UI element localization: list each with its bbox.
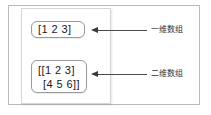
one-dimensional-array-value: [1 2 3] — [38, 23, 84, 36]
diagram-canvas: [1 2 3] [[1 2 3] [4 5 6]] 一维数组 二维数组 — [0, 0, 211, 115]
two-dimensional-array-box: [[1 2 3] [4 5 6]] — [31, 60, 87, 93]
two-dimensional-array-row-2: [4 5 6]] — [38, 77, 86, 91]
label-two-dimensional-array: 二维数组 — [151, 69, 183, 79]
one-dimensional-array-box: [1 2 3] — [31, 21, 85, 38]
arrow-head-icon — [91, 71, 98, 77]
two-dimensional-array-row-1: [[1 2 3] — [38, 63, 86, 77]
arrow-to-one-dimensional-array-icon — [91, 26, 147, 35]
arrow-head-icon — [91, 27, 98, 33]
label-one-dimensional-array: 一维数组 — [151, 25, 183, 35]
arrow-shaft — [98, 74, 147, 75]
arrow-to-two-dimensional-array-icon — [91, 70, 147, 79]
arrow-shaft — [98, 30, 147, 31]
